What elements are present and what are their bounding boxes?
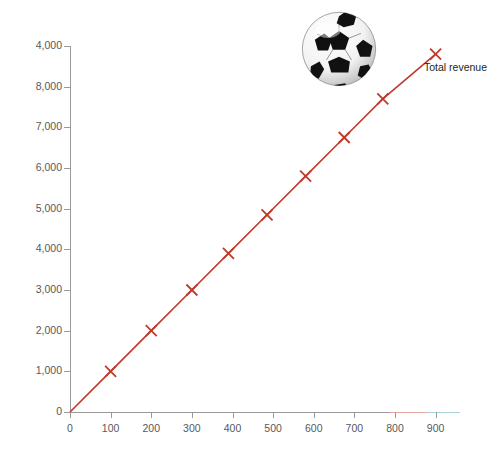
data-point-marker bbox=[300, 171, 311, 182]
soccer-ball-icon bbox=[300, 10, 378, 88]
data-point-marker bbox=[339, 132, 350, 143]
data-point-marker bbox=[223, 248, 234, 259]
data-point-marker bbox=[146, 325, 157, 336]
data-point-marker bbox=[105, 366, 116, 377]
data-point-marker bbox=[430, 49, 441, 60]
series-line-0 bbox=[70, 54, 436, 412]
data-point-marker bbox=[186, 285, 197, 296]
legend-label-total-revenue: Total revenue bbox=[424, 61, 487, 73]
data-point-marker bbox=[262, 209, 273, 220]
data-point-marker bbox=[377, 93, 388, 104]
chart-container: Total revenue (£) 4,0008,0007,0006,0005,… bbox=[0, 0, 498, 455]
